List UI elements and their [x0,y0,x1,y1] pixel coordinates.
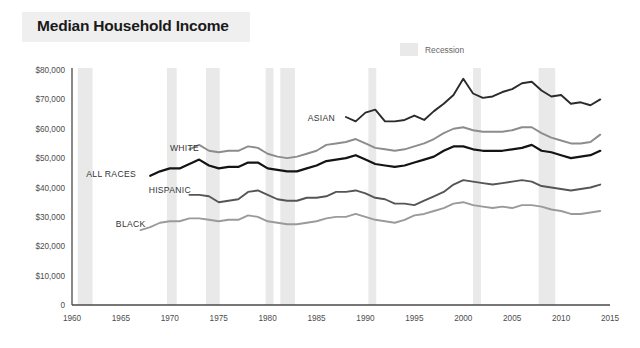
recession-band [78,68,93,305]
y-axis-tick-label: 0 [60,301,65,310]
x-axis-tick-label: 1970 [161,314,180,323]
x-axis-tick-label: 1995 [405,314,424,323]
recession-legend-swatch [400,43,418,56]
recession-band [473,68,481,305]
recession-band [368,68,376,305]
y-axis-tick-label: $30,000 [35,213,65,222]
series-label-white: WHITE [170,143,199,153]
y-axis-tick-label: $70,000 [35,95,65,104]
x-axis-tick-label: 2000 [454,314,473,323]
x-axis-tick-label: 2005 [503,314,522,323]
x-axis-tick-label: 1985 [307,314,326,323]
x-axis-tick-label: 1990 [356,314,375,323]
line-chart-plot: 0$10,000$20,000$30,000$40,000$50,000$60,… [0,0,640,348]
y-axis-tick-label: $20,000 [35,242,65,251]
x-axis-tick-label: 2010 [552,314,571,323]
series-label-all-races: ALL RACES [86,169,136,179]
y-axis-tick-label: $40,000 [35,184,65,193]
recession-band [266,68,274,305]
x-axis-tick-label: 1980 [259,314,278,323]
recession-band [206,68,220,305]
x-axis-tick-label: 1965 [112,314,131,323]
x-axis-tick-label: 2015 [601,314,620,323]
chart-container: Median Household Income 0$10,000$20,000$… [0,0,640,348]
y-axis-tick-label: $80,000 [35,66,65,75]
series-label-asian: ASIAN [308,113,335,123]
series-label-black: BLACK [116,219,146,229]
y-axis-tick-label: $10,000 [35,272,65,281]
x-axis-tick-label: 1975 [210,314,229,323]
y-axis-tick-label: $50,000 [35,154,65,163]
recession-legend-label: Recession [425,45,464,55]
x-axis-tick-label: 1960 [63,314,82,323]
y-axis-tick-label: $60,000 [35,125,65,134]
series-label-hispanic: HISPANIC [149,185,191,195]
recession-band [280,68,295,305]
